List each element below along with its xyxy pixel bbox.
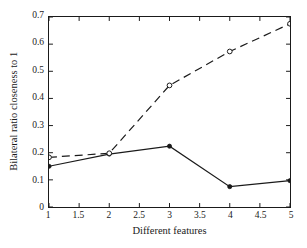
x-tick-label-3: 2.5 [133, 211, 145, 221]
x-tick-label-8: 5 [289, 211, 294, 221]
chart-figure: 00.10.20.30.40.50.60.7 Bilateral ratio c… [0, 0, 307, 248]
data-point-dashed-series-0 [49, 155, 51, 160]
data-point-dashed-series-4 [288, 21, 290, 26]
x-axis-label: Different features [48, 226, 291, 237]
x-tick-label-4: 3 [167, 211, 172, 221]
y-tick-label-4: 0.4 [32, 93, 44, 103]
x-tick-label-6: 4 [228, 211, 233, 221]
data-point-solid-series-0 [49, 164, 51, 168]
data-point-solid-series-2 [167, 144, 171, 148]
y-tick-label-2: 0.2 [32, 148, 44, 158]
data-point-dashed-series-3 [227, 49, 232, 54]
data-point-dashed-series-2 [167, 83, 172, 88]
y-tick-label-5: 0.5 [32, 66, 44, 76]
y-tick-label-6: 0.6 [32, 38, 44, 48]
axis-ticks [49, 17, 290, 207]
data-point-dashed-series-1 [107, 151, 112, 156]
series-layer [49, 21, 290, 188]
y-tick-label-7: 0.7 [32, 11, 44, 21]
y-tick-label-3: 0.3 [32, 121, 44, 131]
y-axis-label: Bilateral ratio closeness to 1 [9, 15, 20, 207]
x-tick-label-0: 1 [46, 211, 51, 221]
x-axis-tick-labels: 11.522.533.544.55 [0, 211, 307, 225]
series-line-solid-series [49, 146, 290, 186]
x-tick-label-2: 2 [106, 211, 111, 221]
x-tick-label-5: 3.5 [194, 211, 206, 221]
series-line-dashed-series [49, 24, 290, 158]
x-tick-label-1: 1.5 [72, 211, 84, 221]
y-tick-label-1: 0.1 [32, 176, 44, 186]
data-point-solid-series-3 [228, 185, 232, 189]
plot-area [48, 16, 291, 208]
plot-svg [49, 17, 290, 207]
x-tick-label-7: 4.5 [255, 211, 267, 221]
data-point-solid-series-4 [288, 179, 290, 183]
